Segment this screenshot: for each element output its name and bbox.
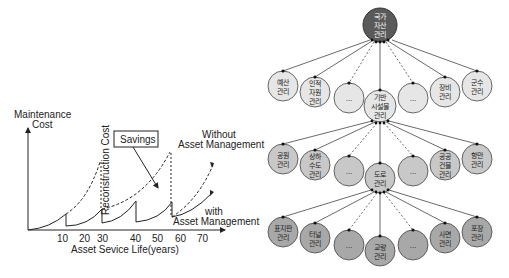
tick-50: 50 [152, 233, 164, 244]
svg-text:포장: 포장 [471, 224, 484, 233]
svg-text:관리: 관리 [277, 87, 289, 96]
svg-text:국가: 국가 [374, 12, 387, 21]
tick-10: 10 [57, 233, 69, 244]
svg-text:군수: 군수 [471, 79, 484, 87]
svg-text:관리: 관리 [277, 233, 289, 242]
node-park: 공원 관리 [268, 142, 298, 174]
node-tunnel: 터널 관리 [300, 221, 330, 253]
node-ellipsis-3b: ... [398, 228, 428, 260]
node-equipment: 장비 관리 [430, 75, 460, 107]
svg-text:...: ... [410, 242, 417, 250]
node-military-supply: 군수 관리 [462, 69, 492, 101]
node-human-resources: 인적 자원 관리 [300, 75, 330, 107]
node-root: 국가 자산 관리 [363, 8, 397, 42]
svg-text:시설물: 시설물 [371, 103, 390, 111]
svg-text:관리: 관리 [439, 92, 451, 101]
svg-text:자원: 자원 [309, 88, 321, 97]
svg-text:도로: 도로 [374, 171, 387, 179]
reconstruction-cost-label: Reconstruction Cost [100, 125, 111, 215]
node-ellipsis-3a: ... [334, 228, 364, 260]
svg-text:사면: 사면 [439, 230, 451, 239]
svg-text:관리: 관리 [439, 170, 451, 179]
without-curve-arrowhead [210, 162, 214, 168]
node-ellipsis-1a: ... [334, 81, 364, 113]
svg-text:...: ... [410, 168, 417, 176]
svg-text:공원: 공원 [277, 151, 289, 160]
diagram-canvas: Maintenance Cost 10 20 30 40 50 60 70 As… [0, 0, 509, 278]
tick-70: 70 [197, 233, 209, 244]
node-road: 도로 관리 [365, 161, 395, 193]
svg-text:관리: 관리 [374, 252, 386, 261]
svg-text:공공: 공공 [439, 153, 452, 161]
svg-text:예산: 예산 [277, 78, 290, 87]
svg-text:...: ... [346, 242, 353, 250]
with-label-line2: Asset Management [173, 216, 259, 227]
svg-text:관리: 관리 [471, 87, 483, 96]
svg-text:장비: 장비 [439, 83, 451, 92]
svg-text:관리: 관리 [309, 170, 321, 179]
y-axis-label-line2: Cost [32, 119, 53, 130]
svg-text:관리: 관리 [439, 239, 451, 248]
svg-text:...: ... [410, 95, 417, 103]
node-ellipsis-2a: ... [334, 154, 364, 186]
svg-text:관리: 관리 [374, 111, 386, 120]
node-ellipsis-2b: ... [398, 154, 428, 186]
node-bridge: 교량 관리 [365, 234, 395, 266]
svg-text:관리: 관리 [309, 239, 321, 248]
savings-arrow [133, 147, 158, 188]
svg-text:관리: 관리 [374, 30, 386, 39]
node-signage: 표지판 관리 [268, 215, 298, 247]
tick-20: 20 [79, 233, 91, 244]
node-public-building: 공공 건물 관리 [430, 148, 460, 180]
svg-text:건물: 건물 [439, 161, 452, 170]
svg-text:자산: 자산 [374, 21, 387, 30]
node-slope: 사면 관리 [430, 221, 460, 253]
asset-management-tree: 국가 자산 관리 예산 관리 인적 자원 관리 ... [268, 8, 492, 266]
svg-text:항만: 항만 [471, 151, 484, 160]
node-water-sewer: 상하 수도 관리 [300, 148, 330, 180]
svg-text:상하: 상하 [309, 152, 322, 161]
svg-text:...: ... [346, 95, 353, 103]
node-budget: 예산 관리 [268, 69, 298, 101]
without-asset-management-curve [66, 152, 213, 217]
svg-text:표지판: 표지판 [274, 224, 293, 233]
svg-text:관리: 관리 [309, 97, 321, 106]
tick-40: 40 [130, 233, 142, 244]
svg-text:...: ... [346, 168, 353, 176]
x-axis-label: Asset Sevice Life(years) [71, 244, 179, 255]
svg-text:인적: 인적 [309, 79, 321, 88]
svg-text:관리: 관리 [471, 233, 483, 242]
node-ellipsis-1b: ... [398, 81, 428, 113]
without-label-line2: Asset Management [178, 139, 264, 150]
svg-text:관리: 관리 [374, 179, 386, 188]
with-curve-arrowhead [210, 190, 214, 196]
svg-text:수도: 수도 [309, 162, 322, 170]
node-infrastructure: 기반 시설물 관리 [364, 88, 396, 122]
svg-text:기반: 기반 [374, 93, 387, 102]
x-tick-labels: 10 20 30 40 50 60 70 [57, 233, 209, 244]
tick-60: 60 [175, 233, 187, 244]
svg-text:관리: 관리 [277, 160, 289, 169]
tick-30: 30 [97, 233, 109, 244]
savings-label: Savings [120, 134, 156, 145]
svg-text:교량: 교량 [374, 244, 387, 252]
node-pavement: 포장 관리 [462, 215, 492, 247]
node-port: 항만 관리 [462, 142, 492, 174]
svg-text:터널: 터널 [309, 230, 321, 239]
maintenance-cost-chart: Maintenance Cost 10 20 30 40 50 60 70 As… [14, 109, 264, 255]
svg-text:관리: 관리 [471, 160, 483, 169]
